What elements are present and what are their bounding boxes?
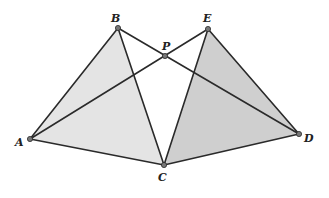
label-e: E: [202, 12, 212, 25]
label-a: A: [14, 136, 24, 149]
point-d: [296, 131, 301, 136]
geometry-diagram: ABCDEP: [0, 0, 329, 198]
label-b: B: [110, 12, 120, 25]
triangle-ecd: [164, 29, 299, 165]
label-p: P: [161, 40, 171, 53]
label-c: C: [158, 171, 167, 184]
labels: ABCDEP: [14, 12, 314, 184]
point-a: [27, 136, 32, 141]
point-p: [162, 53, 167, 58]
point-c: [161, 162, 166, 167]
label-d: D: [303, 132, 314, 145]
point-e: [205, 26, 210, 31]
point-b: [115, 25, 120, 30]
triangle-abc: [30, 28, 164, 165]
